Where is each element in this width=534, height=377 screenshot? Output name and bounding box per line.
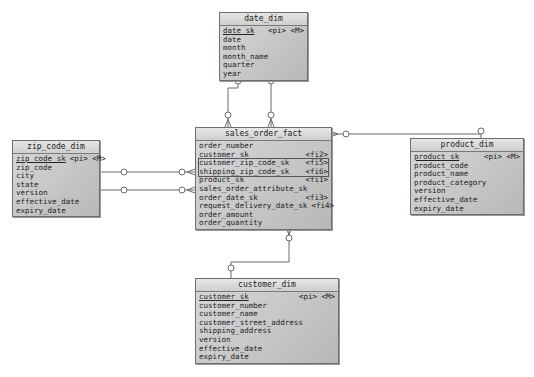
entity-customer-dim[interactable]: customer_dim customer_sk<pi> <M> custome… xyxy=(195,278,339,364)
attribute-row: order_quantity xyxy=(199,219,328,228)
entity-sales-order-fact[interactable]: sales_order_fact order_number customer_s… xyxy=(195,127,332,230)
entity-date-dim[interactable]: date_dim date_sk<pi> <M> date month mont… xyxy=(219,12,308,81)
entity-title: date_dim xyxy=(220,13,307,26)
entity-title: zip_code_dim xyxy=(13,141,99,154)
attribute-row: expiry_date xyxy=(414,205,520,214)
entity-title: customer_dim xyxy=(196,279,338,292)
attribute-row: expiry_date xyxy=(16,207,96,216)
attribute-row: year xyxy=(223,70,304,79)
attribute-row: expiry_date xyxy=(199,353,335,362)
highlighted-attributes: customer_zip_code_sk<fi5> shipping_zip_c… xyxy=(199,159,328,176)
entity-title: sales_order_fact xyxy=(196,128,331,141)
entity-zip-code-dim[interactable]: zip_code_dim zip_code_sk<pi> <M> zip_cod… xyxy=(12,140,100,217)
entity-title: product_dim xyxy=(411,139,523,152)
entity-product-dim[interactable]: product_dim product_sk<pi> <M> product_c… xyxy=(410,138,524,215)
